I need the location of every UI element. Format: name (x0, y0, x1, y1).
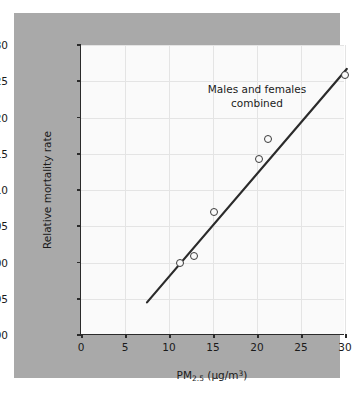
y-tick-label: 1.05 (0, 220, 8, 232)
plot-area: 0.900.951.001.051.101.151.201.251.30 051… (80, 45, 344, 335)
x-tick-label: 30 (338, 341, 351, 353)
y-tick-label: 1.25 (0, 75, 8, 87)
x-axis-title-main: PM (177, 369, 192, 381)
annotation-line-1: Males and females (208, 83, 306, 97)
data-point-marker (190, 252, 198, 260)
data-point-marker (210, 208, 218, 216)
data-point-marker (176, 259, 184, 267)
data-point-marker (341, 71, 349, 79)
x-tick-label: 20 (250, 341, 263, 353)
x-tick-label: 25 (294, 341, 307, 353)
y-tick-label: 1.00 (0, 257, 8, 269)
x-axis-title-subscript: 2.5 (192, 374, 204, 383)
x-tick-label: 5 (122, 341, 129, 353)
figure-container: Relative mortality rate PM2.5 (μg/m3) 0.… (0, 0, 354, 395)
x-axis-title-close: ) (243, 369, 247, 381)
data-point-marker (264, 135, 272, 143)
chart-panel: Relative mortality rate PM2.5 (μg/m3) 0.… (14, 13, 340, 378)
y-tick-label: 1.10 (0, 184, 8, 196)
y-tick-label: 1.30 (0, 39, 8, 51)
y-tick-label: 1.15 (0, 148, 8, 160)
x-axis-title-unit: (μg/m (204, 369, 239, 381)
annotation-line-2: combined (208, 97, 306, 111)
chart-annotation: Males and females combined (208, 83, 306, 111)
x-tick-label: 15 (206, 341, 219, 353)
x-axis-title: PM2.5 (μg/m3) (177, 369, 248, 383)
x-tick-label: 10 (162, 341, 175, 353)
y-tick-label: 0.95 (0, 293, 8, 305)
y-tick-label: 1.20 (0, 112, 8, 124)
y-axis-title: Relative mortality rate (41, 131, 53, 249)
data-point-marker (255, 155, 263, 163)
grid-line-vertical (345, 45, 346, 334)
x-tick-mark (345, 334, 347, 338)
x-tick-label: 0 (78, 341, 85, 353)
y-tick-label: 0.90 (0, 329, 8, 341)
